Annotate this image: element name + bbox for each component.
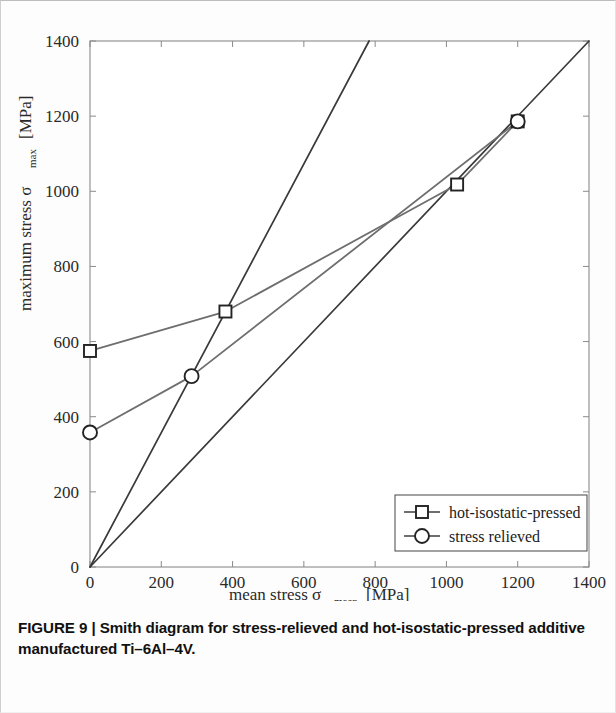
data-point-square <box>451 179 463 191</box>
y-axis-tick-label: 1000 <box>45 182 79 201</box>
chart-figure: 0200400600800100012001400020040060080010… <box>1 1 616 601</box>
y-axis-tick-label: 600 <box>54 333 80 352</box>
caption-label: FIGURE 9 <box>18 619 87 636</box>
data-point-circle <box>511 114 525 128</box>
data-point-circle <box>83 425 97 439</box>
y-axis-tick-label: 400 <box>54 408 80 427</box>
caption-text: Smith diagram for stress-relieved and ho… <box>18 619 585 657</box>
legend-item-label: hot-isostatic-pressed <box>449 504 581 522</box>
x-axis-tick-label: 1000 <box>429 573 463 592</box>
figure-page: 0200400600800100012001400020040060080010… <box>0 0 616 713</box>
y-axis-tick-label: 800 <box>54 257 80 276</box>
y-axis-title-main: maximum stress σ <box>16 187 35 311</box>
data-point-circle <box>185 369 199 383</box>
legend-marker-square <box>416 506 428 518</box>
data-point-square <box>219 306 231 318</box>
y-axis-title-unit: [MPa] <box>16 96 35 139</box>
smith-diagram-plot: 0200400600800100012001400020040060080010… <box>1 1 616 601</box>
x-axis-title-unit: [MPa] <box>366 585 409 601</box>
x-axis-tick-label: 200 <box>149 573 175 592</box>
y-axis-title: maximum stress σmax[MPa] <box>16 96 38 311</box>
x-axis-title: mean stress σmean[MPa] <box>229 585 409 601</box>
y-axis-tick-label: 1200 <box>45 107 79 126</box>
y-axis-title-subscript: max <box>26 149 38 168</box>
legend: hot-isostatic-pressedstress relieved <box>395 495 587 551</box>
y-axis-tick-label: 1400 <box>45 32 79 51</box>
x-axis-title-main: mean stress σ <box>229 585 321 601</box>
legend-marker-circle <box>415 529 429 543</box>
x-axis-title-subscript: mean <box>334 595 358 601</box>
figure-caption: FIGURE 9 | Smith diagram for stress-reli… <box>18 618 598 660</box>
y-axis-tick-label: 0 <box>71 558 80 577</box>
x-axis-tick-label: 1400 <box>572 573 606 592</box>
data-point-square <box>84 345 96 357</box>
y-axis-tick-label: 200 <box>54 483 80 502</box>
x-axis-tick-label: 0 <box>86 573 95 592</box>
x-axis-tick-label: 1200 <box>501 573 535 592</box>
legend-item-label: stress relieved <box>449 528 540 545</box>
